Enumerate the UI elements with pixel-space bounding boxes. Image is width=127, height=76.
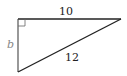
left-side-label: b [7,38,14,51]
right-angle-marker [18,19,25,26]
right-triangle-diagram: 10 b 12 [0,0,127,76]
top-side-label: 10 [59,5,73,18]
hypotenuse [18,19,121,72]
hypotenuse-label: 12 [65,51,79,64]
triangle [18,19,121,72]
